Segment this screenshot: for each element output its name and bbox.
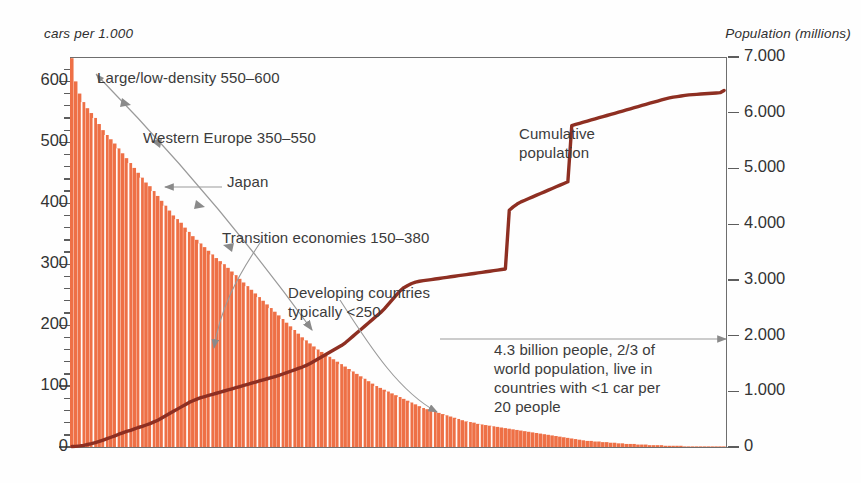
bar-separator (421, 408, 423, 447)
bar-separator (245, 286, 247, 447)
bar (500, 428, 504, 448)
bar (660, 445, 664, 447)
bar (699, 446, 703, 447)
bar (656, 445, 660, 447)
annotation-japan: Japan (227, 172, 268, 191)
bar-separator (374, 386, 376, 447)
bar (214, 258, 218, 447)
bar (574, 439, 578, 447)
bar (460, 420, 464, 447)
bar (722, 446, 726, 447)
bar (562, 437, 566, 447)
bar (414, 404, 418, 447)
bar-separator (292, 330, 294, 447)
bar-separator (280, 319, 282, 447)
bar (519, 431, 523, 447)
annotation-large-low-density: Large/low-density 550–600 (97, 68, 280, 87)
bar (121, 153, 125, 447)
bar (593, 442, 597, 447)
bar (710, 446, 714, 447)
bar (144, 183, 148, 447)
bar (511, 429, 515, 447)
bar (250, 290, 254, 447)
bar (320, 352, 324, 447)
bar (566, 438, 570, 447)
annotation-transition-economies: Transition economies 150–380 (222, 228, 429, 247)
bar (687, 446, 691, 447)
bar (496, 427, 500, 447)
bar-separator (491, 426, 493, 447)
bar (308, 343, 312, 447)
bar (640, 445, 644, 447)
bar (664, 446, 668, 447)
chart-figure: cars per 1.000 Population (millions) 010… (0, 0, 861, 483)
bar (632, 444, 636, 447)
bar (671, 446, 675, 447)
bar (285, 323, 289, 447)
bar (578, 440, 582, 447)
bar-separator (444, 415, 446, 447)
bar-separator (175, 219, 177, 447)
bar-separator (362, 379, 364, 447)
bar-separator (456, 419, 458, 447)
bar (585, 441, 589, 447)
bar-separator (432, 412, 434, 447)
bar (203, 247, 207, 447)
bar (515, 430, 519, 447)
bar-separator (257, 297, 259, 447)
bar-separator (116, 148, 118, 447)
bar (546, 435, 550, 447)
bar-separator (151, 191, 153, 447)
bar (695, 446, 699, 447)
bar (109, 139, 113, 447)
bar (535, 433, 539, 447)
bar (531, 432, 535, 447)
bar (261, 301, 265, 447)
bar (179, 223, 183, 447)
bar-separator (139, 178, 141, 447)
bar-separator (93, 118, 95, 447)
bar (97, 124, 101, 447)
bar (554, 436, 558, 447)
bar-separator (128, 163, 130, 447)
bar (542, 434, 546, 447)
bar (605, 442, 609, 447)
bar (273, 312, 277, 447)
bar (636, 445, 640, 447)
bar-separator (350, 371, 352, 447)
bar-separator (479, 424, 481, 447)
bar (355, 374, 359, 447)
bar (484, 425, 488, 447)
bar (507, 429, 511, 447)
bar-separator (385, 392, 387, 447)
bar (609, 443, 613, 447)
bar-separator (303, 340, 305, 447)
bar-separator (339, 364, 341, 447)
bar-separator (81, 102, 83, 447)
bar (539, 434, 543, 447)
sweep-arrow-head-d (194, 200, 205, 209)
bar (86, 108, 90, 447)
bar (589, 441, 593, 447)
bar (156, 196, 160, 447)
bar (570, 438, 574, 447)
bar (343, 367, 347, 447)
bar (527, 432, 531, 447)
bar (613, 443, 617, 447)
bar (296, 334, 300, 447)
bar (378, 388, 382, 447)
bar (332, 359, 336, 447)
bar (472, 423, 476, 447)
bar (617, 443, 621, 447)
bar (390, 393, 394, 447)
sweep-arrow-head-b (120, 98, 131, 107)
bar (679, 446, 683, 447)
bar (683, 446, 687, 447)
bar (597, 442, 601, 447)
bar-separator (186, 232, 188, 447)
bar (667, 446, 671, 447)
bar (226, 268, 230, 447)
bar (652, 445, 656, 447)
bar-separator (221, 264, 223, 447)
bar (624, 444, 628, 447)
